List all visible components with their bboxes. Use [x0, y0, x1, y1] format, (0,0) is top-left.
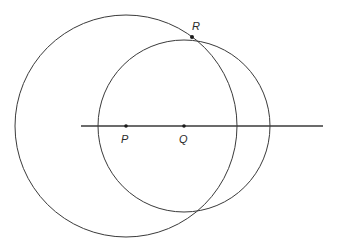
geometry-diagram: P Q R — [0, 0, 341, 248]
point-q — [182, 124, 186, 128]
label-q: Q — [179, 133, 188, 145]
point-r — [190, 35, 194, 39]
label-r: R — [192, 20, 200, 32]
point-p — [124, 124, 128, 128]
label-p: P — [121, 133, 129, 145]
